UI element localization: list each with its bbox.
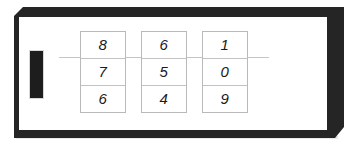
counter-cell: 9 (203, 86, 247, 112)
counter-cell: 0 (203, 59, 247, 86)
counter-column-2[interactable]: 6 5 4 (141, 31, 187, 113)
counter-column-1[interactable]: 8 7 6 (80, 31, 126, 113)
figure-canvas: 8 7 6 6 5 4 1 0 9 (0, 0, 353, 147)
counter-assembly: 8 7 6 6 5 4 1 0 9 (59, 31, 269, 113)
counter-cell: 7 (81, 59, 125, 86)
counter-cell: 6 (142, 32, 186, 59)
counter-cell: 8 (81, 32, 125, 59)
connector-line-2-3 (187, 57, 202, 58)
connector-line-left (59, 57, 80, 58)
connector-line-1-2 (126, 57, 141, 58)
counter-cell: 1 (203, 32, 247, 59)
counter-cell: 6 (81, 86, 125, 112)
black-bar (30, 51, 43, 98)
counter-column-3[interactable]: 1 0 9 (202, 31, 248, 113)
counter-cell: 5 (142, 59, 186, 86)
connector-line-right (248, 57, 269, 58)
counter-cell: 4 (142, 86, 186, 112)
